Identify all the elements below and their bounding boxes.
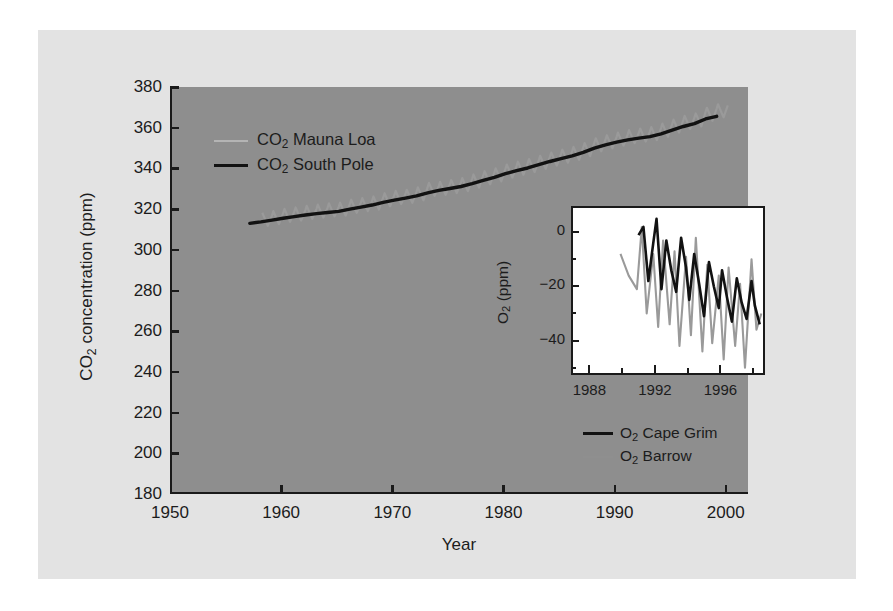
main-x-tick-mark bbox=[391, 485, 394, 494]
main-x-tick-label: 1950 bbox=[151, 504, 189, 521]
main-y-tick-mark bbox=[170, 330, 179, 333]
legend-swatch-gray-inset-icon bbox=[583, 456, 613, 458]
inset-y-tick-mark bbox=[571, 231, 579, 233]
legend-swatch-black-inset-icon bbox=[583, 432, 613, 435]
legend-o2-barrow-pre: O bbox=[620, 447, 632, 464]
main-x-tick-label: 1970 bbox=[373, 504, 411, 521]
inset-x-tick-mark bbox=[588, 365, 590, 373]
figure-panel: 180200220240260280300320340360380 CO2 co… bbox=[38, 30, 856, 579]
main-y-tick-mark bbox=[170, 412, 179, 415]
main-y-tick-label: 300 bbox=[134, 241, 162, 258]
inset-x-tick-label: 1992 bbox=[638, 382, 671, 397]
main-y-tick-label: 380 bbox=[134, 78, 162, 95]
legend-item-co2-south-pole: CO2 South Pole bbox=[214, 153, 376, 178]
main-y-tick-label-group: 180200220240260280300320340360380 bbox=[96, 30, 162, 579]
inset-y-tick-label: −40 bbox=[540, 331, 565, 346]
main-y-tick-label: 260 bbox=[134, 322, 162, 339]
legend-o2-barrow-post: Barrow bbox=[638, 447, 691, 464]
main-y-tick-mark bbox=[170, 127, 179, 130]
main-y-tick-label: 360 bbox=[134, 119, 162, 136]
main-y-tick-mark bbox=[170, 290, 179, 293]
legend-co2-south-pole-post: South Pole bbox=[288, 155, 373, 173]
inset-y-tick-minor-mark bbox=[571, 258, 576, 260]
main-x-tick-mark bbox=[502, 485, 505, 494]
main-y-axis-label: CO2 concentration (ppm) bbox=[77, 142, 98, 432]
inset-y-tick-label: 0 bbox=[557, 222, 565, 237]
main-legend: CO2 Mauna Loa CO2 South Pole bbox=[214, 128, 376, 178]
main-y-tick-label: 180 bbox=[134, 485, 162, 502]
legend-label-o2-cape-grim: O2 Cape Grim bbox=[620, 424, 718, 443]
main-x-tick-label: 2000 bbox=[707, 504, 745, 521]
inset-x-tick-mark bbox=[719, 365, 721, 373]
inset-x-tick-minor-mark bbox=[687, 368, 689, 373]
main-y-axis-label-sub: 2 bbox=[85, 348, 99, 355]
legend-co2-mauna-loa-post: Mauna Loa bbox=[288, 130, 375, 148]
main-x-tick-label: 1960 bbox=[262, 504, 300, 521]
legend-label-co2-south-pole: CO2 South Pole bbox=[257, 155, 374, 176]
inset-x-tick-minor-mark bbox=[621, 368, 623, 373]
inset-y-tick-mark bbox=[571, 285, 579, 287]
legend-swatch-gray-icon bbox=[214, 140, 248, 142]
legend-label-o2-barrow: O2 Barrow bbox=[620, 447, 692, 466]
main-y-tick-label: 320 bbox=[134, 200, 162, 217]
main-y-axis-label-post: concentration (ppm) bbox=[77, 192, 96, 348]
main-y-tick-mark bbox=[170, 371, 179, 374]
inset-y-tick-mark bbox=[571, 340, 579, 342]
inset-x-tick-mark bbox=[654, 365, 656, 373]
inset-y-tick-label: −20 bbox=[540, 276, 565, 291]
main-y-tick-label: 220 bbox=[134, 404, 162, 421]
main-y-tick-mark bbox=[170, 208, 179, 211]
main-y-tick-mark bbox=[170, 452, 179, 455]
main-y-axis-label-pre: CO bbox=[77, 355, 96, 381]
legend-o2-cape-grim-pre: O bbox=[620, 424, 632, 441]
legend-co2-south-pole-pre: CO bbox=[257, 155, 282, 173]
inset-x-tick-label: 1996 bbox=[704, 382, 737, 397]
inset-y-tick-minor-mark bbox=[571, 312, 576, 314]
inset-x-tick-label: 1988 bbox=[573, 382, 606, 397]
main-x-tick-mark bbox=[280, 485, 283, 494]
legend-co2-mauna-loa-pre: CO bbox=[257, 130, 282, 148]
legend-o2-cape-grim-post: Cape Grim bbox=[638, 424, 717, 441]
inset-y-axis-label-post: (ppm) bbox=[494, 261, 511, 306]
main-x-axis-label: Year bbox=[170, 535, 748, 555]
main-x-tick-label: 1990 bbox=[596, 504, 634, 521]
main-y-tick-mark bbox=[170, 249, 179, 252]
inset-plot-area bbox=[571, 206, 765, 375]
legend-swatch-black-icon bbox=[214, 164, 248, 167]
main-y-tick-mark bbox=[170, 167, 179, 170]
main-x-tick-mark bbox=[614, 485, 617, 494]
main-y-tick-label: 340 bbox=[134, 159, 162, 176]
legend-item-o2-cape-grim: O2 Cape Grim bbox=[583, 422, 718, 445]
main-x-tick-mark bbox=[725, 485, 728, 494]
main-y-tick-label: 200 bbox=[134, 444, 162, 461]
legend-item-o2-barrow: O2 Barrow bbox=[583, 445, 718, 468]
inset-x-tick-minor-mark bbox=[752, 368, 754, 373]
inset-y-tick-label-group: 0−20−40 bbox=[510, 206, 565, 375]
inset-chart-svg bbox=[573, 208, 763, 373]
inset-y-tick-minor-mark bbox=[571, 367, 576, 369]
legend-item-co2-mauna-loa: CO2 Mauna Loa bbox=[214, 128, 376, 153]
main-y-tick-mark bbox=[170, 86, 179, 89]
inset-y-axis-label-pre: O bbox=[494, 312, 511, 324]
legend-label-co2-mauna-loa: CO2 Mauna Loa bbox=[257, 130, 376, 151]
main-y-tick-label: 240 bbox=[134, 363, 162, 380]
main-y-tick-label: 280 bbox=[134, 282, 162, 299]
inset-legend: O2 Cape Grim O2 Barrow bbox=[583, 422, 718, 468]
main-x-tick-label: 1980 bbox=[485, 504, 523, 521]
